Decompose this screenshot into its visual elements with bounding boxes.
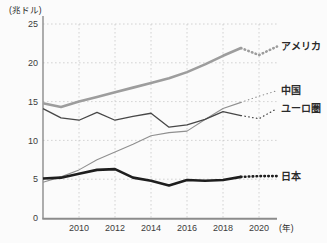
y-tick-label: 5: [33, 174, 38, 184]
chart-canvas: 0510152025201020122014201620182020アメリカ中国…: [0, 0, 327, 243]
series-label-usa: アメリカ: [281, 41, 321, 52]
y-tick-label: 0: [33, 213, 38, 223]
x-axis-unit-label: (年): [279, 221, 294, 233]
gdp-trend-chart: 0510152025201020122014201620182020アメリカ中国…: [0, 0, 327, 243]
x-tick-label: 2016: [177, 223, 197, 233]
x-tick-label: 2020: [249, 223, 269, 233]
y-axis-unit-label: (兆ドル): [9, 3, 42, 15]
y-tick-label: 15: [28, 97, 38, 107]
y-tick-label: 20: [28, 58, 38, 68]
y-tick-label: 25: [28, 19, 38, 29]
series-line-usa: [43, 48, 241, 107]
series-label-china: 中国: [281, 84, 301, 96]
series-line-japan: [43, 169, 241, 185]
x-tick-label: 2012: [105, 223, 125, 233]
x-tick-label: 2010: [69, 223, 89, 233]
series-label-eurozone: ユーロ圏: [281, 103, 321, 114]
series-label-japan: 日本: [281, 170, 302, 182]
series-forecast-usa: [241, 47, 277, 56]
series-line-eurozone: [43, 109, 241, 128]
y-tick-label: 10: [28, 136, 38, 146]
x-tick-label: 2014: [141, 223, 161, 233]
x-tick-label: 2018: [213, 223, 233, 233]
